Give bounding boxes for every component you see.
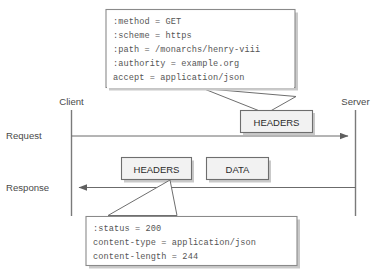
diagram-svg: :method = GET :scheme = https :path = /m… — [0, 0, 392, 276]
request-callout-tail — [203, 89, 296, 114]
response-headers-frame-label: HEADERS — [134, 164, 180, 175]
diagram-canvas: :method = GET :scheme = https :path = /m… — [0, 0, 392, 276]
response-headers-callout: :status = 200 content-type = application… — [86, 180, 300, 269]
request-headers-frame-label: HEADERS — [254, 117, 300, 128]
response-callout-line-2: content-length = 244 — [93, 252, 198, 262]
request-callout-line-2: :path = /monarchs/henry-viii — [113, 45, 260, 55]
response-label: Response — [6, 182, 49, 193]
request-callout-line-1: :scheme = https — [113, 31, 192, 41]
response-callout-line-1: content-type = application/json — [93, 238, 256, 248]
request-headers-frame[interactable]: HEADERS — [241, 111, 316, 136]
response-callout-line-0: :status = 200 — [93, 224, 161, 234]
response-headers-frame[interactable]: HEADERS — [122, 158, 195, 183]
request-callout-line-4: accept = application/json — [113, 73, 244, 83]
response-callout-tail-mask — [87, 217, 296, 222]
request-callout-line-0: :method = GET — [113, 17, 181, 27]
client-label: Client — [59, 96, 84, 107]
request-label: Request — [6, 130, 42, 141]
response-callout-tail — [108, 180, 177, 216]
request-headers-callout: :method = GET :scheme = https :path = /m… — [106, 10, 298, 114]
request-callout-line-3: :authority = example.org — [113, 59, 239, 69]
server-label: Server — [341, 96, 370, 107]
response-data-frame-label: DATA — [226, 164, 251, 175]
response-data-frame[interactable]: DATA — [207, 158, 272, 183]
